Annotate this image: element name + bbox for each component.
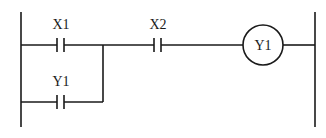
ladder-diagram: X1 X2 Y1 Y1 <box>0 0 326 138</box>
contact-x1-label: X1 <box>52 18 69 32</box>
contact-y1-label: Y1 <box>52 75 69 89</box>
coil-y1-label: Y1 <box>254 39 271 53</box>
contact-x2-icon <box>154 38 161 52</box>
contact-x1-icon <box>57 38 64 52</box>
contact-x2-label: X2 <box>149 18 166 32</box>
contact-y1-icon <box>57 95 64 109</box>
